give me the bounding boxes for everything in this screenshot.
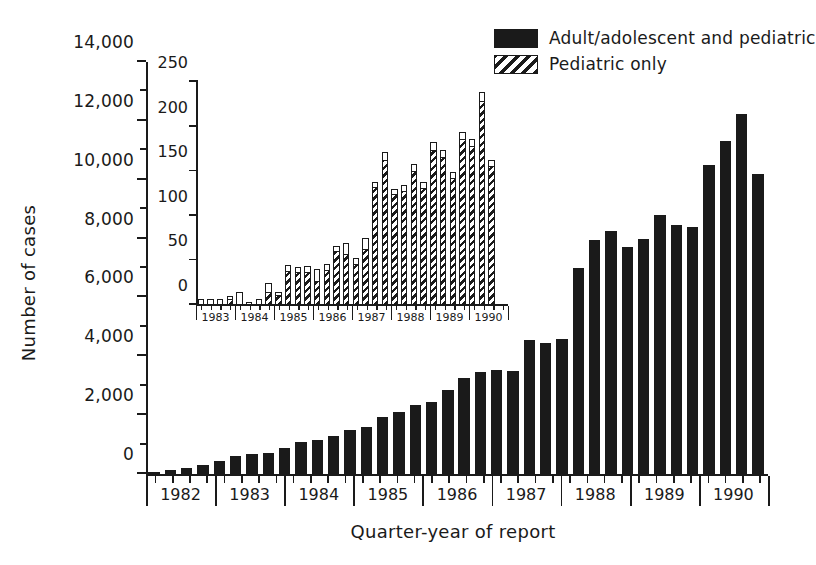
main-y-tick-label: 10,000 [73,149,134,169]
main-y-tick [137,119,146,121]
inset-x-tick [211,306,212,310]
main-x-tick [673,476,675,483]
main-x-tick [690,476,692,483]
main-x-tick [742,476,744,483]
legend-swatch-solid-icon [494,29,538,48]
bar-hatch-fill [266,292,270,304]
main-y-tick-label: 8,000 [84,208,134,228]
bar-hatch-fill [402,191,406,304]
bar [393,412,404,474]
inset-y-tick-label: 100 [157,187,188,206]
main-y-tick [137,472,146,474]
inset-x-tick [474,306,475,310]
inset-plot-area: 050100150200250 [196,82,506,305]
inset-x-tick [454,306,455,310]
bar-hatch-fill [344,254,348,304]
bar-hatch-fill [276,295,280,304]
main-x-tick [362,476,364,483]
inset-x-year-label: 1987 [358,311,386,324]
main-x-tick [759,476,761,483]
main-x-year-separator [353,476,355,506]
bar-hatch-fill [480,101,484,304]
bar-hatch-fill [315,281,319,304]
main-x-year-label: 1985 [368,485,409,504]
bar [420,182,426,305]
main-x-tick [172,476,174,483]
bar [410,405,421,474]
main-x-tick [431,476,433,483]
bar [426,402,437,474]
bar-hatch-fill [460,139,464,304]
bar [703,165,714,474]
bar [507,371,518,474]
bar [556,339,567,474]
inset-x-tick [386,306,387,310]
main-y-tick [137,413,146,415]
bar [540,343,551,474]
inset-x-tick [250,306,251,310]
bar [198,299,204,305]
inset-x-year-separator [313,306,314,320]
inset-x-tick [367,306,368,310]
bar [328,436,339,474]
inset-x-year-separator [352,306,353,320]
bar [246,454,257,474]
main-x-year-separator [768,476,770,506]
inset-x-tick [220,306,221,310]
bar-hatch-fill [470,146,474,304]
bar [488,160,494,305]
bar [622,247,633,474]
main-x-year-label: 1988 [575,485,616,504]
main-y-tick-label: 0 [123,444,134,464]
bar [430,142,436,305]
inset-y-tick-label: 50 [168,232,188,251]
inset-x-year-separator [196,306,197,320]
main-x-tick [276,476,278,483]
bar [263,453,274,474]
main-x-year-label: 1983 [229,485,270,504]
bar [165,470,176,474]
inset-y-tick [189,259,196,261]
bar-hatch-fill [354,264,358,304]
bar [458,378,469,474]
bar [361,427,372,474]
bar [605,231,616,474]
inset-x-year-separator [508,306,509,320]
bar [285,265,291,305]
bar-hatch-fill [363,249,367,304]
main-x-tick [483,476,485,483]
bar-hatch-fill [228,299,232,304]
bar [197,465,208,474]
inset-x-axis: 19831984198519861987198819891990 [196,306,508,328]
main-x-tick [327,476,329,483]
main-x-tick [500,476,502,483]
main-x-tick [310,476,312,483]
bar-hatch-fill [451,178,455,304]
inset-x-year-separator [235,306,236,320]
inset-x-tick [240,306,241,310]
main-y-tick [137,178,146,180]
main-x-tick [241,476,243,483]
bar [362,238,368,305]
inset-x-year-separator [430,306,431,320]
bar [442,390,453,474]
main-x-tick [587,476,589,483]
inset-y-tick-label: 250 [157,53,188,72]
main-x-year-separator [561,476,563,506]
legend-label-adult: Adult/adolescent and pediatric [549,28,816,48]
bar [589,240,600,474]
inset-y-tick [189,170,196,172]
bar [382,152,388,305]
inset-x-year-label: 1990 [475,311,503,324]
main-x-tick [206,476,208,483]
main-x-tick [552,476,554,483]
inset-x-year-separator [469,306,470,320]
inset-x-tick [279,306,280,310]
inset-x-tick [425,306,426,310]
bar [459,132,465,305]
bar [181,468,192,474]
bar-hatch-fill [334,251,338,304]
inset-x-tick [493,306,494,310]
main-x-tick [638,476,640,483]
bar [638,239,649,474]
